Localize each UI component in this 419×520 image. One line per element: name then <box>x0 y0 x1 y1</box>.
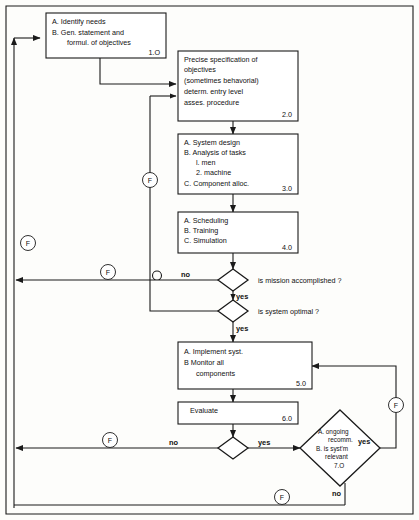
decision-evaluate[interactable] <box>218 437 248 459</box>
process-box-1-number: 1.O <box>148 48 160 57</box>
process-box-3-line-4: C. Component alloc. <box>184 179 249 188</box>
process-box-5-line-0: A. Implement syst. <box>184 347 243 356</box>
decision-optimal-question: is system optimal ? <box>258 307 319 316</box>
connector-f-1-label: F <box>26 240 30 247</box>
process-box-4-line-1: B. Training <box>184 226 218 235</box>
decision-system-optimal[interactable] <box>218 300 248 322</box>
process-box-2-line-4: asses. procedure <box>184 98 239 107</box>
decision-relevant-line-2: B. is syst'm <box>316 445 348 453</box>
process-box-3-line-2: l. men <box>196 158 216 167</box>
flowchart-canvas: A. Identify needs B. Gen. statement and … <box>0 0 419 520</box>
process-box-2-line-2: (sometimes behavorial) <box>184 76 259 85</box>
process-box-5-line-2: components <box>196 369 236 378</box>
process-box-3-number: 3.0 <box>282 184 292 193</box>
connector-f-4-label: F <box>108 437 112 444</box>
process-box-6-line-0: Evaluate <box>190 406 218 415</box>
process-box-2-number: 2.0 <box>282 110 292 119</box>
decision-relevant-line-3: relevant <box>325 453 348 460</box>
process-box-4-number: 4.0 <box>282 243 292 252</box>
decision-relevant-number: 7.O <box>334 462 344 469</box>
decision-mission-no-label: no <box>181 270 191 279</box>
process-box-1-line-1: B. Gen. statement and <box>52 28 124 37</box>
process-box-3-line-3: 2. machine <box>196 168 231 177</box>
process-box-2-line-0: Precise specification of <box>184 55 258 64</box>
process-box-3-line-1: B. Analysis of tasks <box>184 148 246 157</box>
decision-mission-accomplished[interactable] <box>218 269 248 291</box>
process-box-2-line-3: determ. entry level <box>184 87 244 96</box>
line-box1-to-box2 <box>100 58 176 84</box>
process-box-1-line-0: A. Identify needs <box>52 17 106 26</box>
decision-mission-question: is mission accomplished ? <box>258 276 342 285</box>
flowchart-svg: A. Identify needs B. Gen. statement and … <box>0 0 419 520</box>
connector-f-3-label: F <box>148 177 152 184</box>
connector-f-5-label: F <box>280 494 284 501</box>
process-box-4-line-0: A. Scheduling <box>184 216 228 225</box>
decision-evaluate-yes-label: yes <box>258 438 270 447</box>
connector-f-6-label: F <box>394 402 398 409</box>
connector-f-2-label: F <box>106 269 110 276</box>
process-box-4-line-2: C. Simulation <box>184 236 227 245</box>
decision-relevant-line-1: recomm. <box>328 436 353 443</box>
decision-mission-yes-label: yes <box>236 292 248 301</box>
decision-relevant-no-label: no <box>332 489 342 498</box>
process-box-5-line-1: B Monitor all <box>184 358 224 367</box>
decision-relevant-yes-label: yes <box>358 437 370 446</box>
decision-evaluate-no-label: no <box>169 438 179 447</box>
decision-relevant-line-0: A. ongoing <box>318 428 349 436</box>
decision-optimal-yes-label: yes <box>236 324 248 333</box>
process-box-3-line-0: A. System design <box>184 138 240 147</box>
process-box-5-number: 5.0 <box>296 379 306 388</box>
process-box-2-line-1: objectives <box>184 65 216 74</box>
process-box-6-number: 6.0 <box>282 414 292 423</box>
process-box-1-line-2: formul. of objectives <box>67 38 131 47</box>
